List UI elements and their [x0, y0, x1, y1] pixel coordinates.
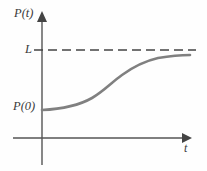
initial-value-label: P(0) [13, 100, 35, 113]
x-axis-label: t [184, 142, 187, 154]
figure-canvas [0, 0, 207, 171]
y-axis-label: P(t) [14, 7, 33, 20]
logistic-growth-figure: P(t) L P(0) t [0, 0, 207, 171]
asymptote-label: L [25, 43, 32, 56]
y-axis-arrow-icon [37, 11, 47, 22]
logistic-curve [42, 55, 190, 110]
